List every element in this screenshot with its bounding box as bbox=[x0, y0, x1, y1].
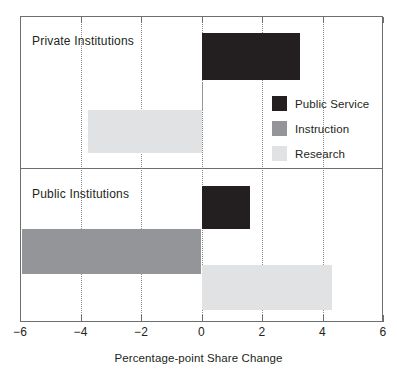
bar-public-service bbox=[202, 33, 300, 80]
bar-research bbox=[88, 110, 201, 153]
x-axis-title: Percentage-point Share Change bbox=[0, 352, 397, 364]
axis-tick-top bbox=[383, 17, 384, 23]
axis-tick-bottom bbox=[383, 315, 384, 322]
x-axis-tick-label: 2 bbox=[242, 325, 282, 339]
legend-item: Research bbox=[272, 143, 378, 164]
legend-swatch-icon bbox=[272, 121, 287, 136]
axis-tick-top bbox=[81, 17, 82, 23]
bar-instruction bbox=[22, 229, 202, 274]
x-axis-tick-label: 4 bbox=[303, 325, 343, 339]
axis-tick-top bbox=[262, 17, 263, 23]
x-axis-tick-label: 6 bbox=[363, 325, 397, 339]
panel-label-private: Private Institutions bbox=[32, 34, 134, 48]
legend-label: Public Service bbox=[295, 98, 369, 110]
bar-instruction bbox=[202, 83, 204, 111]
bar-research bbox=[202, 265, 332, 310]
axis-tick-bottom bbox=[81, 315, 82, 322]
legend-swatch-icon bbox=[272, 146, 287, 161]
chart-legend: Public ServiceInstructionResearch bbox=[272, 93, 378, 168]
legend-label: Research bbox=[295, 148, 345, 160]
panel-label-public: Public Institutions bbox=[32, 187, 129, 201]
bar-public-service bbox=[202, 186, 250, 229]
legend-item: Public Service bbox=[272, 93, 378, 114]
legend-swatch-icon bbox=[272, 96, 287, 111]
axis-tick-bottom bbox=[323, 315, 324, 322]
axis-tick-bottom bbox=[262, 315, 263, 322]
legend-item: Instruction bbox=[272, 118, 378, 139]
x-axis-tick-label: −6 bbox=[0, 325, 40, 339]
x-axis-tick-label: −2 bbox=[121, 325, 161, 339]
chart-root: −6−4−20246 Private Institutions Public I… bbox=[0, 0, 397, 376]
gridline bbox=[141, 17, 142, 321]
x-axis-tick-label: −4 bbox=[61, 325, 101, 339]
gridline bbox=[81, 17, 82, 321]
axis-tick-top bbox=[141, 17, 142, 23]
axis-tick-bottom bbox=[141, 315, 142, 322]
axis-tick-bottom bbox=[202, 315, 203, 322]
panel-divider bbox=[20, 168, 383, 169]
legend-label: Instruction bbox=[295, 123, 349, 135]
axis-tick-bottom bbox=[20, 315, 21, 322]
axis-tick-top bbox=[323, 17, 324, 23]
axis-tick-top bbox=[20, 17, 21, 23]
axis-tick-top bbox=[202, 17, 203, 23]
x-axis-tick-label: 0 bbox=[182, 325, 222, 339]
